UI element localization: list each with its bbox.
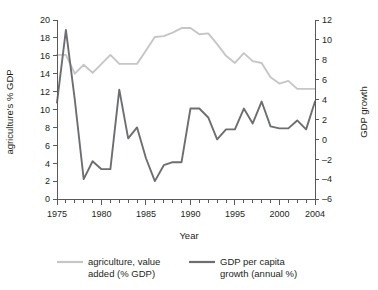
x-axis-tick-label: 1975 [47, 209, 67, 219]
left-axis-tick-label: 18 [40, 33, 50, 43]
x-axis-tick-label: 1980 [91, 209, 111, 219]
chart-legend: agriculture, value added (% GDP) GDP per… [57, 256, 297, 279]
legend-label-gdp-growth-line2: growth (annual %) [220, 268, 297, 279]
legend-label-agriculture-line2: added (% GDP) [88, 268, 155, 279]
left-axis-tick-label: 6 [45, 141, 50, 151]
series-line-agriculture [57, 28, 315, 89]
x-axis-tick-label: 1990 [180, 209, 200, 219]
right-axis-tick-label: 6 [322, 75, 327, 85]
left-axis-tick-label: 8 [45, 123, 50, 133]
chart-figure: 02468101214161820 –6–4–2024681012 197519… [0, 0, 378, 290]
right-axis-tick-label: 0 [322, 135, 327, 145]
series-line-gdp-growth [57, 30, 315, 181]
plot-area [57, 28, 315, 181]
x-axis-tick-label: 2004 [305, 209, 325, 219]
y-axis-title-left: agriculture's % GDP [4, 69, 15, 154]
left-axis-tick-label: 12 [40, 87, 50, 97]
y-axis-title-right: GDP growth [358, 86, 369, 138]
left-axis-tick-label: 4 [45, 159, 50, 169]
chart-canvas: 02468101214161820 –6–4–2024681012 197519… [0, 0, 378, 290]
right-axis-tick-label: 10 [322, 35, 332, 45]
left-axis-tick-label: 10 [40, 105, 50, 115]
left-axis: 02468101214161820 [40, 15, 57, 204]
left-axis-tick-label: 16 [40, 51, 50, 61]
right-axis: –6–4–2024681012 [315, 15, 332, 204]
left-axis-tick-label: 0 [45, 194, 50, 204]
right-axis-tick-label: –4 [322, 174, 332, 184]
left-axis-tick-label: 20 [40, 15, 50, 25]
left-axis-tick-label: 14 [40, 69, 50, 79]
left-axis-tick-label: 2 [45, 176, 50, 186]
x-axis-title: Year [179, 230, 198, 241]
x-axis-tick-label: 1995 [225, 209, 245, 219]
legend-label-gdp-growth-line1: GDP per capita [220, 256, 285, 267]
right-axis-tick-label: –6 [322, 194, 332, 204]
x-axis-tick-label: 1985 [136, 209, 156, 219]
right-axis-tick-label: 12 [322, 15, 332, 25]
right-axis-tick-label: 8 [322, 55, 327, 65]
x-axis: 1975198019851990199520002004 [47, 199, 325, 219]
legend-label-agriculture-line1: agriculture, value [88, 256, 160, 267]
right-axis-tick-label: 2 [322, 115, 327, 125]
right-axis-tick-label: –2 [322, 155, 332, 165]
right-axis-tick-label: 4 [322, 95, 327, 105]
x-axis-tick-label: 2000 [269, 209, 289, 219]
